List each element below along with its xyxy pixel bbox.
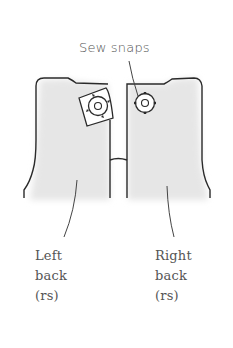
right-back-label-line-3: (rs) [155, 286, 192, 306]
right-back-label: Right back (rs) [155, 246, 192, 306]
left-back-label-line-3: (rs) [35, 286, 67, 306]
left-back-label: Left back (rs) [35, 246, 67, 306]
center-crossbar [110, 159, 127, 161]
left-back-label-line-2: back [35, 266, 67, 286]
left-back-label-line-1: Left [35, 246, 67, 266]
right-back-label-line-1: Right [155, 246, 192, 266]
right-back-label-line-2: back [155, 266, 192, 286]
sew-snaps-callout: Sew snaps [79, 38, 150, 58]
